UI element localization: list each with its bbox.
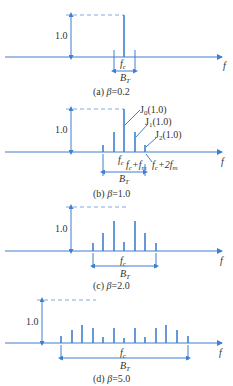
bt-label: BT [120,72,131,85]
caption-c: (c) β=2.0 [93,280,130,292]
panel-a: f 1.0 fc BT (a) β=0.2 [5,15,227,98]
j2-annotation: J2(1.0) [155,129,182,142]
fc-label: fc [120,58,127,71]
j1-annotation: J1(1.0) [145,116,172,129]
panel-b: f 1.0 J0(1.0) J1(1.0) J2(1.0) fc fc+fm f… [5,104,225,200]
fc-plus-2fm-label: fc+2fm [152,159,177,172]
fm-spectrum-diagram: f 1.0 fc BT (a) β=0.2 f 1.0 J0(1.0) J1(1… [0,0,233,386]
panel-c: f 1.0 fc BT (c) β=2.0 [5,207,224,292]
j0-leader [125,110,140,125]
axis-label-f: f [220,255,224,266]
fc-plus-fm-label: fc+fm [126,159,146,172]
amplitude-label: 1.0 [26,316,39,327]
caption-a: (a) β=0.2 [93,86,130,98]
bt-label: BT [120,360,131,373]
axis-label-f: f [221,156,225,167]
axis-label-f: f [219,347,223,358]
bt-label: BT [119,173,130,186]
axis-label-f: f [223,60,227,71]
amplitude-label: 1.0 [55,223,68,234]
caption-b: (b) β=1.0 [93,188,130,200]
amplitude-label: 1.0 [55,124,68,135]
panel-d: f 1.0 fc BT (d) β=5.0 [5,300,223,385]
fc-label: fc [118,154,125,167]
amplitude-label: 1.0 [55,30,68,41]
caption-d: (d) β=5.0 [93,373,130,385]
